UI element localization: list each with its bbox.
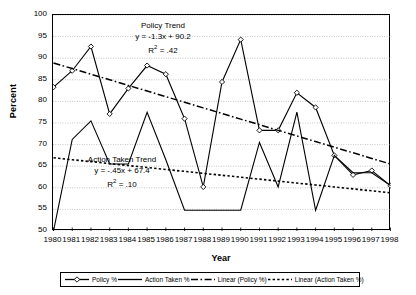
- legend-item: Action Taken %: [117, 275, 190, 284]
- legend-swatch-icon: [117, 275, 143, 284]
- action-trend-equation: y = -.45x + 67.4: [52, 165, 192, 176]
- action-taken-trend-annotation: Action Taken Trend y = -.45x + 67.4 R2 =…: [52, 154, 192, 190]
- action-trend-title: Action Taken Trend: [52, 154, 192, 165]
- chart-legend: Policy %Action Taken %Linear (Policy %)L…: [60, 272, 360, 287]
- legend-label: Action Taken %: [145, 276, 190, 283]
- action-trend-r2: R2 = .10: [52, 176, 192, 190]
- legend-swatch-icon: [267, 275, 293, 284]
- data-point-marker: [238, 37, 243, 42]
- legend-label: Policy %: [92, 276, 117, 283]
- x-axis-title: Year: [52, 253, 390, 263]
- data-point-marker: [257, 128, 262, 133]
- legend-swatch-icon: [190, 275, 216, 284]
- legend-swatch-icon: [64, 275, 90, 284]
- data-point-marker: [182, 116, 187, 121]
- legend-label: Linear (Policy %): [218, 276, 267, 283]
- legend-item: Linear (Action Taken %): [267, 275, 364, 284]
- data-point-marker: [201, 184, 206, 189]
- policy-trend-title: Policy Trend: [88, 20, 238, 31]
- data-point-marker: [163, 72, 168, 77]
- x-tick-label: 1998: [373, 236, 407, 244]
- legend-item: Linear (Policy %): [190, 275, 267, 284]
- legend-label: Linear (Action Taken %): [295, 276, 364, 283]
- line-chart: Percent 50556065707580859095100 19801981…: [0, 0, 416, 295]
- policy-trend-r2: R2 = .42: [88, 42, 238, 56]
- policy-trend-equation: y = -1.3x + 90.2: [88, 31, 238, 42]
- series-line: [54, 63, 391, 164]
- policy-trend-annotation: Policy Trend y = -1.3x + 90.2 R2 = .42: [88, 20, 238, 56]
- legend-item: Policy %: [64, 275, 117, 284]
